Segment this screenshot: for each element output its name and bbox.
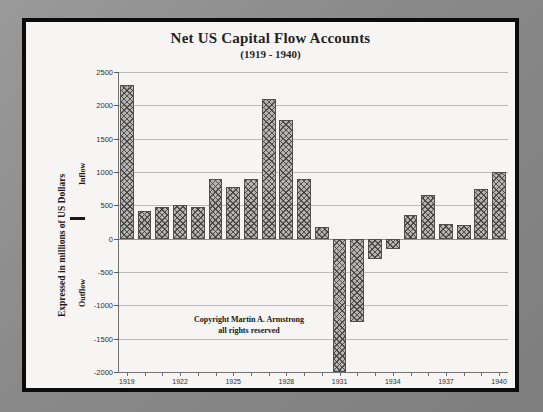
x-tick-mark-1932 <box>357 372 358 376</box>
x-tick-mark-1935 <box>411 372 412 376</box>
bar-1932 <box>350 239 364 322</box>
x-tick-label-1931: 1931 <box>332 378 348 385</box>
x-tick-mark-1919 <box>127 372 128 376</box>
bar-1935 <box>404 215 418 238</box>
bar-1929 <box>297 179 311 239</box>
x-tick-mark-1940 <box>499 372 500 376</box>
copyright-line-1: Copyright Martin A. Armstrong <box>144 314 354 325</box>
x-tick-mark-1927 <box>269 372 270 376</box>
outflow-label: Outflow <box>78 279 87 307</box>
x-tick-mark-1931 <box>340 372 341 376</box>
bar-1928 <box>279 120 293 238</box>
bar-1934 <box>386 239 400 249</box>
flow-direction-group: Inflow Outflow <box>66 107 82 322</box>
copyright-note: Copyright Martin A. Armstrong all rights… <box>144 314 354 336</box>
x-tick-mark-1929 <box>304 372 305 376</box>
x-tick-label-1928: 1928 <box>279 378 295 385</box>
y-axis-label-group: Expressed in millions of US Dollars <box>44 82 62 332</box>
bar-1925 <box>226 187 240 239</box>
bar-1939 <box>474 189 488 239</box>
bar-1923 <box>191 207 205 239</box>
bar-1926 <box>244 179 258 239</box>
x-tick-label-1919: 1919 <box>119 378 135 385</box>
x-tick-mark-1925 <box>233 372 234 376</box>
bar-1933 <box>368 239 382 259</box>
bar-1919 <box>120 85 134 238</box>
bar-1936 <box>421 195 435 238</box>
x-tick-mark-1924 <box>216 372 217 376</box>
chart-frame: Net US Capital Flow Accounts (1919 - 194… <box>22 18 519 392</box>
x-tick-mark-1930 <box>322 372 323 376</box>
bar-1931 <box>333 239 347 372</box>
bar-1920 <box>138 211 152 239</box>
photo-background: Net US Capital Flow Accounts (1919 - 194… <box>0 0 543 412</box>
bar-1937 <box>439 224 453 239</box>
bar-1924 <box>209 179 223 239</box>
x-tick-label-1937: 1937 <box>438 378 454 385</box>
x-tick-label-1934: 1934 <box>385 378 401 385</box>
bar-1927 <box>262 99 276 239</box>
chart-title: Net US Capital Flow Accounts <box>26 30 515 47</box>
x-tick-mark-1933 <box>375 372 376 376</box>
x-tick-label-1940: 1940 <box>491 378 507 385</box>
x-tick-label-1922: 1922 <box>172 378 188 385</box>
inflow-label: Inflow <box>78 163 87 185</box>
bar-1922 <box>173 205 187 238</box>
chart-subtitle: (1919 - 1940) <box>26 48 515 60</box>
copyright-line-2: all rights reserved <box>144 325 354 336</box>
x-tick-mark-1928 <box>286 372 287 376</box>
bar-1940 <box>492 172 506 239</box>
x-tick-mark-1936 <box>428 372 429 376</box>
x-tick-mark-1939 <box>481 372 482 376</box>
x-tick-mark-1922 <box>180 372 181 376</box>
bar-1930 <box>315 227 329 239</box>
x-tick-mark-1938 <box>464 372 465 376</box>
x-tick-label-1925: 1925 <box>225 378 241 385</box>
x-tick-mark-1920 <box>145 372 146 376</box>
x-tick-mark-1926 <box>251 372 252 376</box>
bar-1938 <box>457 225 471 238</box>
bar-1921 <box>155 207 169 238</box>
x-tick-mark-1937 <box>446 372 447 376</box>
x-tick-mark-1923 <box>198 372 199 376</box>
chart-title-block: Net US Capital Flow Accounts (1919 - 194… <box>26 30 515 60</box>
flow-divider <box>70 217 85 220</box>
chart-paper: Net US Capital Flow Accounts (1919 - 194… <box>26 22 515 388</box>
x-axis-line <box>118 372 508 373</box>
x-tick-mark-1921 <box>162 372 163 376</box>
x-tick-mark-1934 <box>393 372 394 376</box>
